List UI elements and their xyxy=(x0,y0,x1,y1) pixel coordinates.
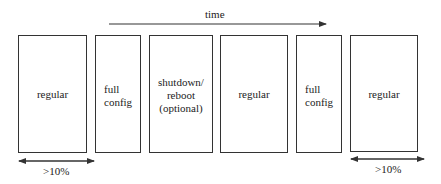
phase-label-line1: full xyxy=(104,83,119,96)
phase-regular-1: regular xyxy=(18,35,87,153)
time-label: time xyxy=(205,8,225,21)
phase-label-line2: reboot xyxy=(150,89,212,102)
right-span-label: >10% xyxy=(375,163,401,176)
phase-label: regular xyxy=(351,88,417,101)
left-span-label: >10% xyxy=(43,165,69,178)
phase-label-line1: shutdown/ xyxy=(150,76,212,89)
phase-label: regular xyxy=(221,88,287,101)
phase-shutdown-reboot: shutdown/ reboot (optional) xyxy=(149,35,213,153)
phase-label: regular xyxy=(19,88,86,101)
phase-label-line2: config xyxy=(104,96,132,109)
phase-regular-3: regular xyxy=(350,35,418,152)
phase-label-line3: (optional) xyxy=(150,102,212,115)
phase-regular-2: regular xyxy=(220,35,288,153)
phase-full-config-1: full config xyxy=(95,35,141,153)
phase-full-config-2: full config xyxy=(296,35,342,153)
phase-label-line1: full xyxy=(305,83,320,96)
phase-label-line2: config xyxy=(305,96,333,109)
